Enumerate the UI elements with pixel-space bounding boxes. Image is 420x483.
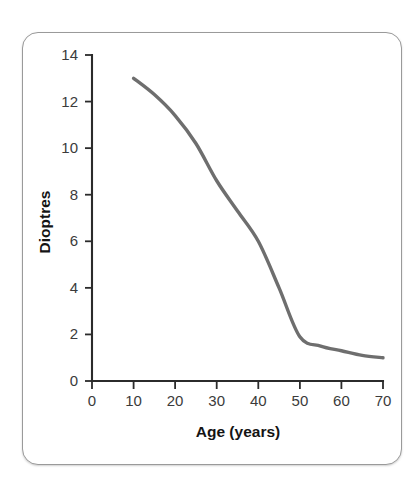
x-tick-label-30: 30 (208, 392, 225, 409)
x-tick-label-40: 40 (250, 392, 267, 409)
y-tick-label-14: 14 (61, 46, 78, 63)
x-tick-label-50: 50 (292, 392, 309, 409)
x-tick-label-70: 70 (375, 392, 392, 409)
y-tick-label-8: 8 (70, 186, 78, 203)
y-tick-label-2: 2 (70, 325, 78, 342)
y-tick-label-0: 0 (70, 372, 78, 389)
x-tick-label-60: 60 (333, 392, 350, 409)
y-tick-label-12: 12 (61, 93, 78, 110)
x-axis-title: Age (years) (196, 423, 280, 440)
y-axis-title: Dioptres (36, 191, 53, 254)
figure-root: 0 2 4 6 8 10 12 14 0 10 20 30 40 5 (0, 0, 420, 483)
y-tick-label-4: 4 (70, 279, 78, 296)
y-axis-tick-labels: 0 2 4 6 8 10 12 14 (61, 46, 78, 389)
x-axis-tick-labels: 0 10 20 30 40 50 60 70 (88, 392, 392, 409)
line-chart: 0 2 4 6 8 10 12 14 0 10 20 30 40 5 (0, 0, 420, 483)
x-tick-label-0: 0 (88, 392, 96, 409)
data-series-line (134, 78, 383, 357)
x-axis-ticks (92, 381, 383, 389)
y-tick-label-6: 6 (70, 232, 78, 249)
y-tick-label-10: 10 (61, 139, 78, 156)
x-tick-label-20: 20 (167, 392, 184, 409)
x-tick-label-10: 10 (125, 392, 142, 409)
